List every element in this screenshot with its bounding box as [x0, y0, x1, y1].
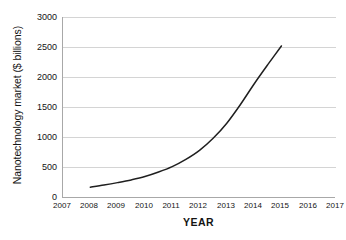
- plot-area: [62, 17, 335, 198]
- x-tick-label: 2010: [129, 201, 159, 210]
- x-axis-title: YEAR: [62, 216, 335, 228]
- x-tick-label: 2007: [47, 201, 77, 210]
- x-tick-label: 2016: [293, 201, 323, 210]
- x-tick-label: 2011: [156, 201, 186, 210]
- x-tick-label: 2008: [74, 201, 104, 210]
- x-tick-label: 2015: [265, 201, 295, 210]
- y-tick-label: 2500: [11, 43, 57, 52]
- y-tick-label: 1000: [11, 133, 57, 142]
- y-tick-label: 2000: [11, 73, 57, 82]
- chart-figure: Nanotechnology market ($ billions) 3000 …: [0, 0, 346, 240]
- x-tick-label: 2013: [211, 201, 241, 210]
- gridlines: [63, 18, 336, 168]
- y-tick-label: 500: [11, 163, 57, 172]
- y-tick-label: 3000: [11, 13, 57, 22]
- y-tick-label: 1500: [11, 103, 57, 112]
- x-tick-label: 2009: [101, 201, 131, 210]
- x-tick-label: 2012: [183, 201, 213, 210]
- x-tick-label: 2017: [320, 201, 346, 210]
- x-tick-label: 2014: [238, 201, 268, 210]
- data-line-series-0: [90, 46, 281, 187]
